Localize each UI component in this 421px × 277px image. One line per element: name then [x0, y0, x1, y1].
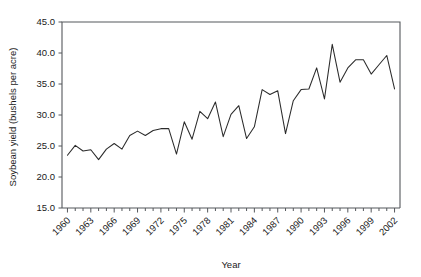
y-tick-label: 15.0 [37, 202, 56, 213]
x-tick-label: 1993 [307, 215, 330, 238]
y-tick-label: 35.0 [37, 78, 56, 89]
x-tick-label: 1984 [237, 215, 260, 238]
line-series-soybean-yield [67, 44, 394, 159]
data-series-group [67, 44, 394, 159]
x-tick-label: 2002 [377, 215, 400, 238]
x-axis-ticks [67, 208, 394, 213]
x-tick-label: 1972 [143, 215, 166, 238]
y-tick-label: 25.0 [37, 140, 56, 151]
y-axis-tick-labels: 15.020.025.030.035.040.045.0 [37, 16, 56, 213]
x-tick-label: 1963 [73, 215, 96, 238]
y-tick-label: 20.0 [37, 171, 56, 182]
x-tick-label: 1981 [213, 215, 236, 238]
chart-canvas: 15.020.025.030.035.040.045.0 19601963196… [0, 0, 421, 277]
x-tick-label: 1987 [260, 215, 283, 238]
x-tick-label: 1966 [96, 215, 119, 238]
x-tick-label: 1978 [190, 215, 213, 238]
x-axis-tick-labels: 1960196319661969197219751978198119841987… [50, 215, 400, 238]
x-tick-label: 1996 [330, 215, 353, 238]
x-tick-label: 1975 [166, 215, 189, 238]
x-tick-label: 1960 [50, 215, 73, 238]
soybean-yield-chart-figure: 15.020.025.030.035.040.045.0 19601963196… [0, 0, 421, 277]
x-axis-title: Year [221, 259, 240, 270]
x-tick-label: 1969 [120, 215, 143, 238]
y-tick-label: 30.0 [37, 109, 56, 120]
y-tick-label: 45.0 [37, 16, 56, 27]
x-tick-label: 1999 [353, 215, 376, 238]
y-tick-label: 40.0 [37, 47, 56, 58]
x-tick-label: 1990 [283, 215, 306, 238]
y-axis-title: Soybean yield (bushels per acre) [7, 48, 18, 187]
